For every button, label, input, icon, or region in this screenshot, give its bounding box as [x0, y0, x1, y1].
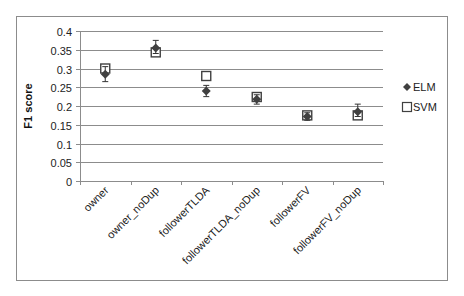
svm-point [202, 72, 211, 81]
gridlines [80, 32, 383, 163]
y-tick-label: 0.25 [51, 82, 72, 94]
x-axis [80, 31, 384, 185]
x-tick-label: owner [81, 184, 111, 214]
y-tick-label: 0.35 [51, 45, 72, 57]
y-axis-title: F1 score [22, 83, 34, 128]
data-points [101, 40, 363, 121]
legend-label-svm: SVM [413, 101, 437, 113]
chart: 00.050.10.150.20.250.30.350.4 ownerowner… [0, 0, 464, 296]
y-tick-label: 0.4 [57, 26, 72, 38]
diamond-icon [403, 83, 411, 91]
y-axis-ticks: 00.050.10.150.20.250.30.350.4 [51, 26, 80, 188]
y-tick-label: 0.2 [57, 101, 72, 113]
square-icon [403, 103, 412, 112]
x-tick-label: followerFV [267, 183, 313, 229]
x-tick-label: owner_noDup [104, 184, 161, 241]
legend-item-elm: ELM [403, 81, 436, 93]
y-tick-label: 0.15 [51, 120, 72, 132]
x-axis-labels: ownerowner_noDupfollowerTLDAfollowerTLDA… [81, 183, 363, 266]
y-tick-label: 0.3 [57, 64, 72, 76]
legend-label-elm: ELM [413, 81, 436, 93]
legend: ELM SVM [403, 81, 437, 113]
y-tick-label: 0.1 [57, 139, 72, 151]
x-tick-label: followerTLDA [156, 183, 212, 239]
y-tick-label: 0.05 [51, 157, 72, 169]
y-tick-label: 0 [66, 176, 72, 188]
legend-item-svm: SVM [403, 101, 437, 113]
